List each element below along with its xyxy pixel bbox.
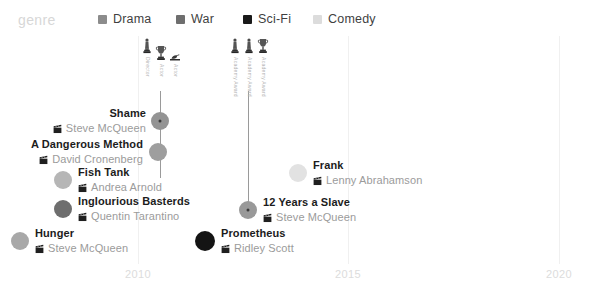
award-marker-icon bbox=[159, 120, 162, 123]
data-point-label: FrankLenny Abrahamson bbox=[313, 159, 422, 188]
x-tick-label-2015: 2015 bbox=[335, 268, 361, 280]
award-marker-icon bbox=[247, 209, 250, 212]
film-director-row: Steve McQueen bbox=[263, 211, 356, 225]
film-director-row: Lenny Abrahamson bbox=[313, 174, 422, 188]
trophy-award-icon[interactable]: Actor bbox=[155, 45, 167, 77]
film-title: Fish Tank bbox=[78, 166, 162, 180]
clapperboard-icon bbox=[53, 123, 62, 133]
plot-area: 201020152020 DirectorActorActorAcademy A… bbox=[0, 36, 589, 294]
award-icon-label: Director bbox=[145, 57, 150, 77]
award-icon-row[interactable]: DirectorActorActor bbox=[141, 38, 181, 77]
clapperboard-icon bbox=[313, 175, 322, 185]
laurel-award-icon[interactable]: Actor bbox=[169, 49, 181, 77]
data-point-frank[interactable] bbox=[289, 164, 307, 182]
legend: genre DramaWarSci-FiComedy bbox=[0, 10, 589, 36]
film-director-row: Quentin Tarantino bbox=[78, 210, 190, 224]
legend-item-label: Sci-Fi bbox=[258, 12, 291, 26]
clapperboard-icon bbox=[78, 182, 87, 192]
film-director-name: Ridley Scott bbox=[234, 242, 294, 256]
gridline-2020 bbox=[559, 36, 560, 264]
data-point-inglourious-basterds[interactable] bbox=[54, 200, 72, 218]
data-point-label: Inglourious BasterdsQuentin Tarantino bbox=[78, 195, 190, 224]
data-point-label: A Dangerous MethodDavid Cronenberg bbox=[31, 138, 143, 167]
legend-swatch-icon bbox=[313, 15, 322, 24]
film-director-name: Steve McQueen bbox=[276, 211, 356, 225]
data-point-fish-tank[interactable] bbox=[54, 171, 72, 189]
legend-item-comedy[interactable]: Comedy bbox=[313, 12, 376, 26]
clapperboard-icon bbox=[221, 243, 230, 253]
oscar-award-icon[interactable]: Academy Award bbox=[243, 38, 255, 97]
legend-item-drama[interactable]: Drama bbox=[98, 12, 152, 26]
clapperboard-icon bbox=[35, 243, 44, 253]
film-director-name: Andrea Arnold bbox=[91, 181, 162, 195]
award-icon-label: Academy Award bbox=[261, 57, 266, 97]
data-point-label: HungerSteve McQueen bbox=[35, 227, 128, 256]
clapperboard-icon bbox=[39, 154, 48, 164]
award-icon-label: Academy Award bbox=[247, 57, 252, 97]
data-point-label: 12 Years a SlaveSteve McQueen bbox=[263, 196, 356, 225]
film-director-row: Ridley Scott bbox=[221, 242, 294, 256]
film-director-row: Andrea Arnold bbox=[78, 181, 162, 195]
legend-swatch-icon bbox=[98, 15, 107, 24]
oscar-award-icon[interactable]: Academy Award bbox=[229, 38, 241, 97]
x-tick-label-2010: 2010 bbox=[125, 268, 151, 280]
data-point-prometheus[interactable] bbox=[195, 231, 215, 251]
film-director-name: David Cronenberg bbox=[52, 153, 143, 167]
film-director-name: Quentin Tarantino bbox=[91, 210, 179, 224]
film-director-row: Steve McQueen bbox=[35, 242, 128, 256]
legend-item-label: Drama bbox=[113, 12, 152, 26]
film-director-name: Lenny Abrahamson bbox=[326, 174, 422, 188]
film-title: Inglourious Basterds bbox=[78, 195, 190, 209]
film-title: A Dangerous Method bbox=[31, 138, 143, 152]
legend-title: genre bbox=[18, 12, 56, 28]
legend-swatch-icon bbox=[243, 15, 252, 24]
award-stem-line bbox=[248, 91, 249, 211]
award-icon-label: Actor bbox=[173, 64, 178, 77]
data-point-label: Fish TankAndrea Arnold bbox=[78, 166, 162, 195]
legend-item-war[interactable]: War bbox=[176, 12, 214, 26]
film-director-row: David Cronenberg bbox=[31, 153, 143, 167]
data-point-label: PrometheusRidley Scott bbox=[221, 227, 294, 256]
film-title: Hunger bbox=[35, 227, 128, 241]
film-title: Shame bbox=[53, 107, 146, 121]
film-director-name: Steve McQueen bbox=[66, 122, 146, 136]
oscar-award-icon[interactable]: Director bbox=[141, 38, 153, 77]
film-title: 12 Years a Slave bbox=[263, 196, 356, 210]
film-director-row: Steve McQueen bbox=[53, 122, 146, 136]
legend-item-label: War bbox=[191, 12, 214, 26]
award-icon-label: Actor bbox=[159, 64, 164, 77]
data-point-hunger[interactable] bbox=[11, 232, 29, 250]
award-icon-row[interactable]: Academy AwardAcademy AwardAcademy Award bbox=[229, 38, 269, 97]
legend-item-sci-fi[interactable]: Sci-Fi bbox=[243, 12, 291, 26]
clapperboard-icon bbox=[263, 212, 272, 222]
film-director-name: Steve McQueen bbox=[48, 242, 128, 256]
genre-timeline-chart: genre DramaWarSci-FiComedy 201020152020 … bbox=[0, 0, 589, 294]
legend-item-label: Comedy bbox=[328, 12, 376, 26]
trophy-award-icon[interactable]: Academy Award bbox=[257, 38, 269, 97]
gridline-2015 bbox=[348, 36, 349, 264]
award-icon-label: Academy Award bbox=[233, 57, 238, 97]
data-point-a-dangerous-method[interactable] bbox=[149, 143, 167, 161]
clapperboard-icon bbox=[78, 211, 87, 221]
x-tick-label-2020: 2020 bbox=[546, 268, 572, 280]
film-title: Frank bbox=[313, 159, 422, 173]
film-title: Prometheus bbox=[221, 227, 294, 241]
legend-swatch-icon bbox=[176, 15, 185, 24]
data-point-label: ShameSteve McQueen bbox=[53, 107, 146, 136]
